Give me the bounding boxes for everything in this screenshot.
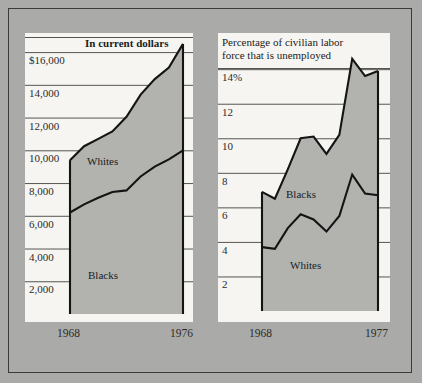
income-xtick-1976: 1976 xyxy=(170,327,193,339)
income-ytick-10000: 10,000 xyxy=(29,152,59,164)
income-ytick-4000: 4,000 xyxy=(29,251,54,263)
chart-panel-unemployment xyxy=(218,33,390,322)
unemployment-xtick-1977: 1977 xyxy=(365,327,388,339)
unemployment-ytick-14%: 14% xyxy=(222,71,242,83)
unemployment-ytick-10: 10 xyxy=(222,140,233,152)
unemployment-ytick-12: 12 xyxy=(222,106,233,118)
unemployment-ytick-2: 2 xyxy=(222,278,228,290)
unemployment-xtick-1968: 1968 xyxy=(249,327,272,339)
unemployment-ytick-8: 8 xyxy=(222,175,228,187)
unemployment-ytick-4: 4 xyxy=(222,244,228,256)
unemployment-chart-title: Percentage of civilian labor force that … xyxy=(222,36,343,61)
income-chart-title: In current dollars xyxy=(85,37,169,50)
unemployment-chart-svg xyxy=(218,33,390,322)
unemployment-series-label-whites: Whites xyxy=(290,259,321,271)
income-series-label-whites: Whites xyxy=(87,155,118,167)
income-ytick-12000: 12,000 xyxy=(29,120,59,132)
income-ytick-6000: 6,000 xyxy=(29,218,54,230)
income-ytick-14000: 14,000 xyxy=(29,87,59,99)
figure-canvas: In current dollars2,0004,0006,0008,00010… xyxy=(0,0,422,383)
unemployment-series-label-blacks: Blacks xyxy=(286,188,316,200)
income-series-label-blacks: Blacks xyxy=(88,269,118,281)
income-ytick-8000: 8,000 xyxy=(29,185,54,197)
unemployment-ytick-6: 6 xyxy=(222,209,228,221)
income-ytick-16000: $16,000 xyxy=(29,54,65,66)
income-ytick-2000: 2,000 xyxy=(29,283,54,295)
income-xtick-1968: 1968 xyxy=(57,327,80,339)
